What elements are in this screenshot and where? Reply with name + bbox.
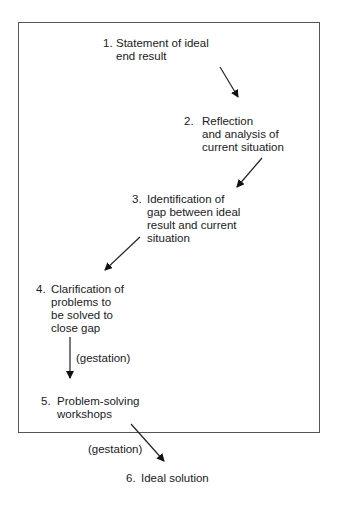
- arrow-2-to-3: [237, 158, 262, 187]
- flow-arrows: [0, 0, 338, 519]
- arrow-3-to-4: [105, 237, 140, 270]
- arrow-5-to-6: [131, 424, 164, 461]
- arrow-1-to-2: [220, 67, 238, 97]
